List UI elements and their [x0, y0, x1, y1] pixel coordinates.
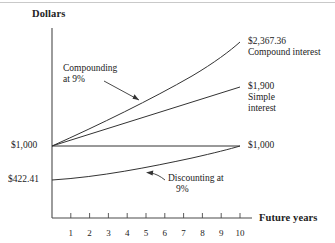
x-tick-label-10: 10 — [233, 228, 247, 238]
x-tick-label-8: 8 — [195, 228, 209, 238]
x-tick-label-1: 1 — [64, 228, 78, 238]
x-axis-ticks — [71, 213, 240, 218]
discounting-annotation-line2: 9% — [176, 184, 189, 195]
discounting-annotation-arrowhead — [146, 171, 153, 176]
y-axis-title: Dollars — [32, 8, 65, 20]
x-tick-label-6: 6 — [158, 228, 172, 238]
compounding-annotation-line2: at 9% — [63, 74, 85, 85]
compounding-annotation-arrowhead — [133, 94, 140, 100]
x-axis-title: Future years — [259, 212, 317, 224]
x-tick-label-3: 3 — [101, 228, 115, 238]
series-simple-interest-line — [52, 87, 240, 146]
compound-interest-value-label: $2,367.36 — [248, 36, 286, 47]
x-tick-label-9: 9 — [214, 228, 228, 238]
no-interest-value-label: $1,000 — [248, 140, 274, 151]
x-tick-label-5: 5 — [139, 228, 153, 238]
simple-interest-value-label: $1,900 — [248, 81, 274, 92]
compounding-annotation-line1: Compounding — [63, 63, 117, 74]
chart-figure: Dollars $1,000 $422.41 $2,367.36 Compoun… — [0, 0, 335, 243]
x-tick-label-7: 7 — [177, 228, 191, 238]
series-compound-interest-line — [52, 42, 240, 146]
x-tick-label-4: 4 — [120, 228, 134, 238]
y-axis-label-1000: $1,000 — [11, 140, 37, 151]
y-axis-label-422: $422.41 — [8, 174, 39, 185]
compound-interest-name-label: Compound interest — [248, 47, 321, 58]
x-tick-label-2: 2 — [83, 228, 97, 238]
simple-interest-name-line1: Simple — [248, 92, 275, 103]
simple-interest-name-line2: interest — [248, 103, 276, 114]
discounting-annotation-leader — [151, 173, 165, 180]
discounting-annotation-line1: Discounting at — [168, 173, 224, 184]
